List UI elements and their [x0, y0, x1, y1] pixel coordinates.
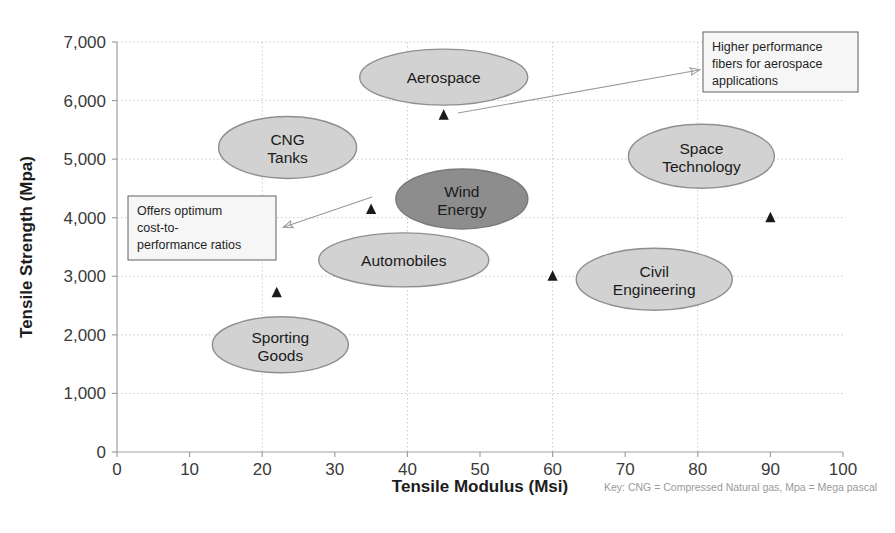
- bubble-label-line2: Engineering: [613, 281, 696, 298]
- marker-sporting-goods: [272, 287, 282, 298]
- scatter-chart: 0102030405060708090100 01,0002,0003,0004…: [0, 0, 895, 533]
- callout-line: Higher performance: [712, 40, 823, 54]
- x-tick-label: 20: [253, 460, 272, 479]
- marker-civil: [548, 270, 558, 281]
- callout-line: fibers for aerospace: [712, 57, 823, 71]
- y-tick-label: 1,000: [63, 384, 106, 403]
- x-tick-label: 30: [325, 460, 344, 479]
- x-tick-label: 0: [112, 460, 121, 479]
- x-tick-label: 10: [180, 460, 199, 479]
- bubble-label-line1: Wind: [444, 183, 479, 200]
- bubble-label-line2: Goods: [258, 347, 304, 364]
- callout-line: cost-to-: [137, 221, 179, 235]
- callout-arrow: [284, 197, 372, 227]
- bubble-label-line1: Automobiles: [361, 252, 447, 269]
- bubble-label-line1: Space: [679, 140, 723, 157]
- y-tick-label: 5,000: [63, 150, 106, 169]
- bubble-space-technology[interactable]: SpaceTechnology: [628, 124, 774, 188]
- bubble-group: AerospaceCNGTanksSpaceTechnologyWindEner…: [212, 49, 774, 373]
- bubble-label-line1: Aerospace: [407, 69, 481, 86]
- callout-line: Offers optimum: [137, 204, 222, 218]
- y-tick-label: 0: [97, 443, 106, 462]
- key-note: Key: CNG = Compressed Natural gas, Mpa =…: [604, 481, 877, 493]
- bubble-aerospace[interactable]: Aerospace: [360, 49, 528, 105]
- x-tick-label: 90: [761, 460, 780, 479]
- bubble-label-line1: CNG: [270, 131, 304, 148]
- bubble-civil-engineering[interactable]: CivilEngineering: [576, 248, 732, 310]
- chart-canvas: 0102030405060708090100 01,0002,0003,0004…: [0, 0, 895, 533]
- y-tick-label: 2,000: [63, 326, 106, 345]
- y-axis-title: Tensile Strength (Mpa): [17, 156, 36, 338]
- bubble-label-line2: Energy: [437, 201, 486, 218]
- x-tick-label: 70: [616, 460, 635, 479]
- bubble-wind-energy[interactable]: WindEnergy: [396, 169, 528, 229]
- callout-line: applications: [712, 74, 778, 88]
- marker-space-technology: [765, 212, 775, 223]
- y-tick-label: 3,000: [63, 267, 106, 286]
- callout-line: performance ratios: [137, 238, 241, 252]
- y-tick-label: 4,000: [63, 209, 106, 228]
- y-tick-label: 6,000: [63, 92, 106, 111]
- bubble-label-line1: Civil: [640, 263, 669, 280]
- bubble-cng-tanks[interactable]: CNGTanks: [219, 116, 357, 178]
- x-tick-label: 100: [829, 460, 857, 479]
- bubble-label-line1: Sporting: [251, 329, 309, 346]
- y-tick-label: 7,000: [63, 33, 106, 52]
- marker-wind-energy: [366, 204, 376, 215]
- marker-aerospace: [439, 109, 449, 120]
- bubble-automobiles[interactable]: Automobiles: [319, 233, 489, 287]
- x-axis-title: Tensile Modulus (Msi): [392, 477, 568, 496]
- bubble-sporting-goods[interactable]: SportingGoods: [212, 317, 348, 373]
- bubble-label-line2: Technology: [662, 158, 741, 175]
- bubble-label-line2: Tanks: [267, 149, 308, 166]
- y-axis-tick-labels: 01,0002,0003,0004,0005,0006,0007,000: [63, 33, 106, 462]
- x-tick-label: 80: [688, 460, 707, 479]
